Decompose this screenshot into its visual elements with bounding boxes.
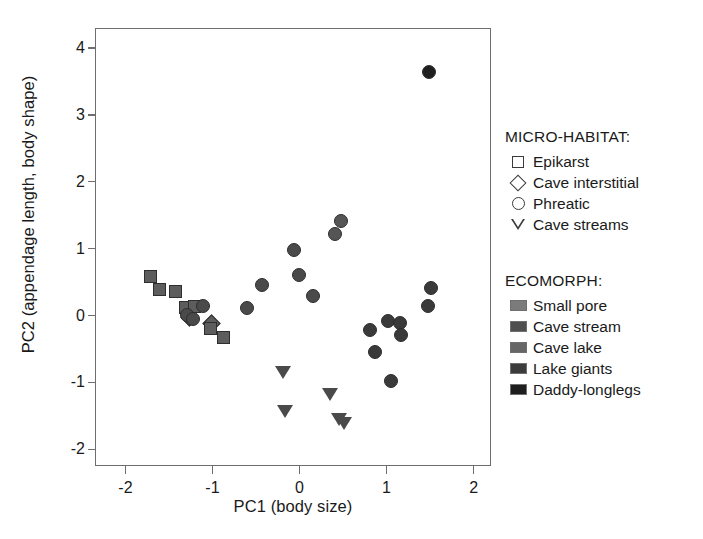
x-tick-label: -1 xyxy=(192,480,232,496)
x-tick-label: 2 xyxy=(454,480,494,496)
y-tick-label: 3 xyxy=(51,107,85,123)
legend-label: Cave lake xyxy=(531,339,602,357)
triangle-marker-icon xyxy=(511,219,525,230)
data-point-square xyxy=(217,331,230,344)
legend-key xyxy=(505,363,531,374)
data-point-circle xyxy=(363,323,377,337)
legend-key xyxy=(505,384,531,395)
x-tick-mark xyxy=(299,466,300,474)
swatch-icon xyxy=(510,342,527,353)
x-tick-mark xyxy=(125,466,126,474)
y-tick-label: 1 xyxy=(51,241,85,257)
plot-area xyxy=(95,28,491,466)
data-point-circle xyxy=(334,214,348,228)
data-point-circle xyxy=(255,278,269,292)
data-point-triangle xyxy=(277,405,293,418)
legend-item: Cave stream xyxy=(505,316,641,337)
x-tick-label: -2 xyxy=(105,480,145,496)
legend-key xyxy=(505,300,531,311)
data-point-square xyxy=(204,322,217,335)
legend-key xyxy=(505,342,531,353)
scatter-plot-figure: PC2 (appendage length, body shape) PC1 (… xyxy=(0,0,703,539)
swatch-icon xyxy=(510,384,527,395)
legend-label: Lake giants xyxy=(531,360,612,378)
x-tick-mark xyxy=(386,466,387,474)
legend-key xyxy=(505,197,531,210)
diamond-marker-icon xyxy=(510,174,527,191)
swatch-icon xyxy=(510,300,527,311)
data-point-circle xyxy=(292,268,306,282)
data-point-circle xyxy=(196,299,210,313)
data-point-circle xyxy=(186,312,200,326)
swatch-icon xyxy=(510,321,527,332)
x-tick-label: 1 xyxy=(367,480,407,496)
legend-item: Phreatic xyxy=(505,193,639,214)
legend-item: Epikarst xyxy=(505,151,639,172)
data-point-circle xyxy=(394,328,408,342)
data-point-circle xyxy=(287,243,301,257)
y-tick-label: -2 xyxy=(51,441,85,457)
legend-title: MICRO-HABITAT: xyxy=(505,128,639,146)
legend-label: Small pore xyxy=(531,297,607,315)
legend-micro-habitat: MICRO-HABITAT:EpikarstCave interstitialP… xyxy=(505,128,639,235)
data-point-circle xyxy=(306,289,320,303)
legend-item: Cave lake xyxy=(505,337,641,358)
data-point-triangle xyxy=(336,417,352,430)
legend-item: Lake giants xyxy=(505,358,641,379)
x-tick-label: 0 xyxy=(280,480,320,496)
data-point-square xyxy=(144,270,157,283)
data-point-square xyxy=(153,283,166,296)
legend-key xyxy=(505,156,531,168)
data-point-square xyxy=(169,285,182,298)
legend-item: Daddy-longlegs xyxy=(505,379,641,400)
legend-key xyxy=(505,219,531,230)
legend-item: Cave streams xyxy=(505,214,639,235)
data-point-triangle xyxy=(275,366,291,379)
legend-ecomorph: ECOMORPH:Small poreCave streamCave lakeL… xyxy=(505,272,641,400)
data-point-circle xyxy=(384,374,398,388)
legend-item: Small pore xyxy=(505,295,641,316)
y-tick-label: 0 xyxy=(51,308,85,324)
legend-label: Phreatic xyxy=(531,195,590,213)
y-tick-label: 4 xyxy=(51,40,85,56)
data-point-circle xyxy=(421,299,435,313)
data-point-triangle xyxy=(322,388,338,401)
y-axis-title: PC2 (appendage length, body shape) xyxy=(19,5,38,425)
legend-item: Cave interstitial xyxy=(505,172,639,193)
x-tick-mark xyxy=(473,466,474,474)
legend-label: Cave interstitial xyxy=(531,174,639,192)
data-point-circle xyxy=(368,345,382,359)
data-point-circle xyxy=(240,301,254,315)
square-marker-icon xyxy=(512,156,524,168)
y-tick-label: -1 xyxy=(51,374,85,390)
y-tick-label: 2 xyxy=(51,174,85,190)
legend-label: Daddy-longlegs xyxy=(531,381,641,399)
data-point-circle xyxy=(422,65,436,79)
data-point-circle xyxy=(424,281,438,295)
legend-key xyxy=(505,177,531,189)
legend-label: Epikarst xyxy=(531,153,589,171)
circle-marker-icon xyxy=(512,197,525,210)
x-axis-title: PC1 (body size) xyxy=(95,497,491,516)
legend-key xyxy=(505,321,531,332)
swatch-icon xyxy=(510,363,527,374)
data-point-circle xyxy=(328,227,342,241)
x-tick-mark xyxy=(212,466,213,474)
legend-label: Cave stream xyxy=(531,318,621,336)
legend-title: ECOMORPH: xyxy=(505,272,641,290)
legend-label: Cave streams xyxy=(531,216,629,234)
